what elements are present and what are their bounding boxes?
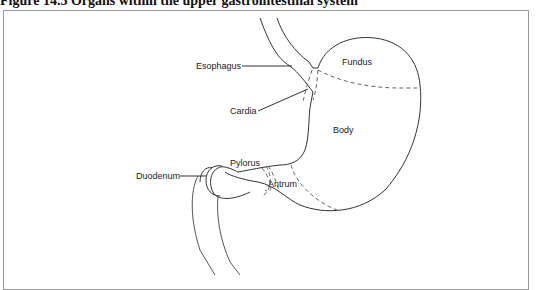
label-cardia: Cardia <box>230 106 257 116</box>
cardia-boundary-dashed-2 <box>313 70 318 100</box>
duodenum-outer <box>192 176 215 275</box>
esophagus-outer-wall <box>260 18 313 92</box>
duodenum-inner <box>218 196 241 275</box>
label-pylorus: Pylorus <box>230 158 261 168</box>
pylorus-bulge <box>211 167 250 199</box>
label-antrum: Antrum <box>268 179 297 189</box>
cardia-leader <box>258 89 308 111</box>
label-body: Body <box>333 125 354 135</box>
label-duodenum: Duodenum <box>136 171 180 181</box>
stomach-outline <box>225 37 421 210</box>
label-fundus: Fundus <box>342 57 373 67</box>
pylorus-ridge-1 <box>206 166 222 196</box>
cardia-boundary-dashed-1 <box>303 70 312 102</box>
fundus-boundary-dashed <box>318 70 420 88</box>
label-esophagus: Esophagus <box>196 61 242 71</box>
